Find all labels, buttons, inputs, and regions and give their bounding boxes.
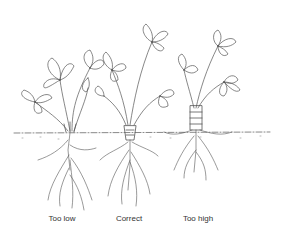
leaves: [22, 50, 104, 113]
label-too-high: Too high: [183, 214, 213, 223]
roots: [100, 140, 158, 206]
stems: [184, 46, 224, 108]
crown: [64, 122, 76, 132]
plant-correct: [95, 24, 174, 206]
plant-too-high: [164, 30, 240, 180]
stems: [35, 68, 90, 131]
roots: [164, 130, 232, 180]
leaves: [95, 24, 174, 107]
label-too-low: Too low: [48, 214, 75, 223]
crown: [190, 106, 202, 130]
roots: [38, 133, 96, 210]
plant-too-low: [22, 50, 104, 210]
planting-depth-illustration: [0, 0, 283, 245]
stems: [104, 42, 160, 125]
crown: [124, 126, 136, 140]
soil-speckles: [22, 136, 261, 139]
leaves: [178, 30, 240, 96]
label-correct: Correct: [116, 214, 142, 223]
